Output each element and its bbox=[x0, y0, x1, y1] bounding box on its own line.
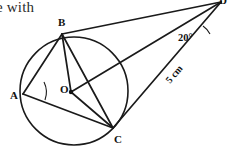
angle-arc-at-a bbox=[44, 82, 46, 100]
point-label-a: A bbox=[10, 89, 18, 101]
segment-o-c bbox=[71, 92, 113, 128]
point-label-b: B bbox=[58, 16, 66, 28]
point-label-c: C bbox=[114, 133, 122, 145]
circle-geometry-diagram: A B C O D 20° 5 cm bbox=[0, 0, 229, 152]
circle-center-dot bbox=[69, 90, 73, 94]
angle-arc-at-d bbox=[203, 26, 210, 34]
segment-a-b bbox=[23, 34, 62, 94]
angle-label-20-degrees: 20° bbox=[178, 32, 193, 43]
segment-a-c bbox=[23, 94, 113, 128]
geometry-figure-screenshot: e with A B C O D 20° 5 cm bbox=[0, 0, 229, 152]
segment-o-d bbox=[71, 2, 221, 92]
point-label-o: O bbox=[60, 83, 69, 95]
point-label-d: D bbox=[219, 0, 227, 6]
